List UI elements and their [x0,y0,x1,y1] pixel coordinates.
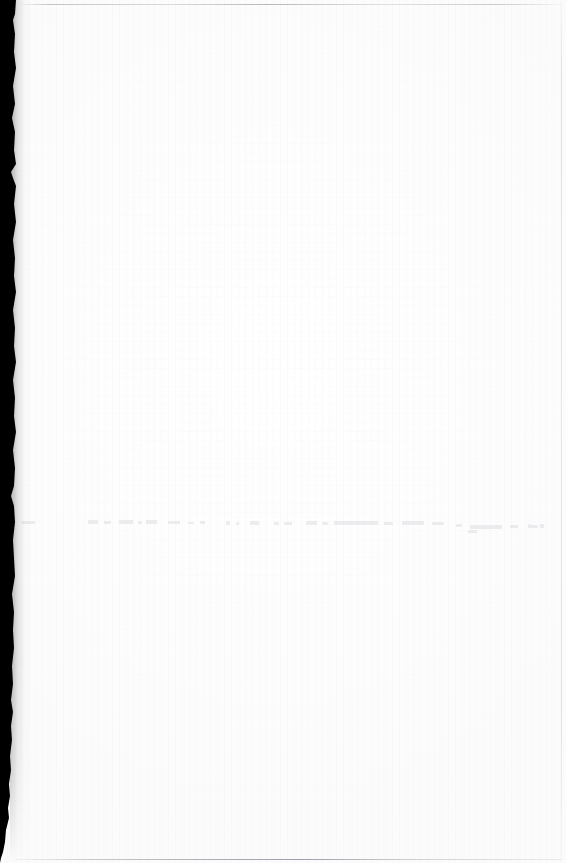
bottom-scan-edge-line [16,859,562,860]
right-scan-edge-line [561,2,562,860]
paper-grain-texture [0,0,566,863]
top-scan-edge-line [18,4,561,5]
scanned-page [0,0,566,863]
